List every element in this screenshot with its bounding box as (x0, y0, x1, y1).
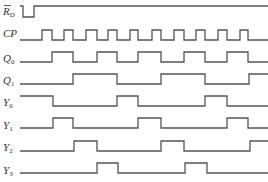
signal-y2: Y2 (3, 141, 268, 155)
signal-y1: Y1 (3, 118, 268, 133)
waveform-y1 (20, 118, 268, 128)
signal-q1: Q1 (3, 74, 268, 88)
label-y2: Y2 (3, 141, 13, 155)
label-y1: Y1 (3, 119, 13, 133)
waveform-y2 (20, 141, 268, 151)
label-rd: RD (2, 5, 15, 19)
waveform-y0 (20, 96, 268, 106)
waveform-cp (20, 30, 268, 40)
timing-diagram: RD CP Q0 Q1 Y0 Y1 Y2 Y3 (0, 0, 268, 182)
label-q1: Q1 (3, 74, 15, 88)
signal-q0: Q0 (3, 52, 268, 66)
waveform-rd (20, 6, 268, 17)
signal-rd: RD (2, 5, 268, 19)
signal-y3: Y3 (3, 163, 268, 178)
label-cp: CP (3, 27, 17, 39)
signal-cp: CP (3, 27, 268, 40)
label-y0: Y0 (3, 96, 13, 110)
waveform-q0 (20, 52, 268, 62)
signal-y0: Y0 (3, 96, 268, 110)
label-y3: Y3 (3, 164, 13, 178)
waveform-y3 (20, 163, 268, 173)
label-q0: Q0 (3, 52, 15, 66)
waveform-q1 (20, 74, 268, 84)
